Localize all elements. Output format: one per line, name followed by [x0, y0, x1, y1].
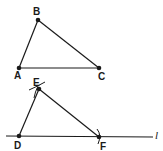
segment-bc: [38, 20, 99, 68]
construction-arcs: [29, 82, 100, 144]
triangle-abc: [19, 20, 99, 68]
line-l: [6, 136, 153, 137]
segment-de: [19, 89, 39, 136]
point-b: [36, 18, 41, 23]
point-f: [97, 135, 102, 140]
geometry-diagram: B A C l E D F: [0, 0, 163, 151]
segment-ab: [19, 20, 38, 68]
point-d: [17, 134, 22, 139]
label-e: E: [33, 77, 40, 88]
triangle-def: [19, 89, 99, 137]
label-b: B: [33, 6, 40, 17]
label-d: D: [14, 140, 21, 151]
label-c: C: [98, 71, 105, 82]
label-l: l: [155, 129, 158, 141]
label-f: F: [100, 141, 106, 151]
point-c: [97, 66, 102, 71]
segment-ef: [39, 89, 99, 137]
label-a: A: [14, 70, 21, 81]
